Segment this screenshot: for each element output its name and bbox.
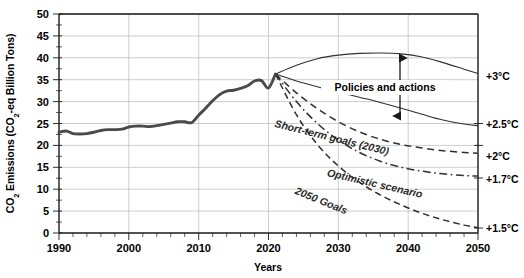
x-tick-label: 2010 (186, 242, 210, 254)
y-axis-title: CO2 Emissions (CO2-eq Billion Tons) (4, 34, 21, 214)
curve-policies-and-actions-upper (275, 53, 478, 74)
chart-canvas: 50 45 40 35 30 25 20 15 10 5 0 1990 2000… (0, 0, 524, 278)
temp-label-3c: +3°C (486, 70, 510, 82)
y-tick-label: 10 (37, 183, 49, 195)
x-tick-label: 2050 (466, 242, 490, 254)
y-tick-label: 45 (37, 30, 49, 42)
y-tick-label: 5 (43, 205, 49, 217)
y-tick-label: 20 (37, 139, 49, 151)
x-tick-label: 2000 (117, 242, 141, 254)
curve-historical-emissions (59, 74, 275, 134)
y-axis-ticks (53, 14, 62, 233)
goals-2050-label: 2050 Goals (293, 184, 350, 216)
x-tick-labels: 1990 2000 2010 2020 2030 2040 2050 (47, 242, 490, 254)
x-tick-label: 2040 (396, 242, 420, 254)
x-tick-label: 2030 (326, 242, 350, 254)
y-tick-label: 50 (37, 8, 49, 20)
y-tick-labels: 50 45 40 35 30 25 20 15 10 5 0 (37, 8, 49, 239)
y-tick-label: 0 (43, 227, 49, 239)
optimistic-scenario-label: Optimistic scenario (326, 166, 424, 200)
right-axis-temperature-labels: +3°C +2.5°C +2°C +1.7°C +1.5°C (474, 70, 519, 234)
policies-and-actions-annotation: Policies and actions (321, 58, 449, 116)
policies-and-actions-label: Policies and actions (335, 81, 436, 93)
x-tick-label: 2020 (256, 242, 280, 254)
y-tick-label: 35 (37, 74, 49, 86)
x-tick-label: 1990 (47, 242, 71, 254)
emissions-scenarios-chart: 50 45 40 35 30 25 20 15 10 5 0 1990 2000… (0, 0, 524, 278)
x-axis-title: Years (254, 261, 282, 273)
temp-label-2c: +2°C (486, 150, 510, 162)
temp-label-2_5c: +2.5°C (486, 118, 519, 130)
temp-label-1_7c: +1.7°C (486, 173, 519, 185)
y-tick-label: 30 (37, 96, 49, 108)
x-axis-ticks (59, 233, 478, 240)
temp-label-1_5c: +1.5°C (486, 222, 519, 234)
y-tick-label: 40 (37, 52, 49, 64)
y-tick-label: 15 (37, 161, 49, 173)
y-tick-label: 25 (37, 118, 49, 130)
